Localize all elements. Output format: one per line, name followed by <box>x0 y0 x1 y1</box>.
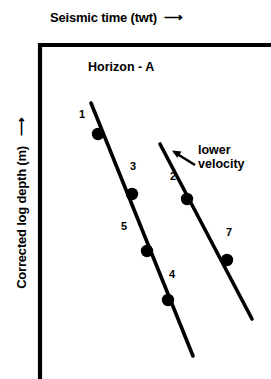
seismic-log-depth-figure: Seismic time (twt) ⟶ Corrected log depth… <box>0 0 271 379</box>
data-point-3 <box>126 188 138 200</box>
data-point-label-1: 1 <box>79 108 85 120</box>
data-point-label-7: 7 <box>226 226 232 238</box>
data-point-label-2: 2 <box>170 170 176 182</box>
data-point-1 <box>92 128 104 140</box>
data-point-4 <box>162 294 174 306</box>
data-point-7 <box>221 254 233 266</box>
data-point-label-3: 3 <box>130 160 136 172</box>
data-point-5 <box>141 245 153 257</box>
data-point-label-4: 4 <box>169 268 176 280</box>
data-point-2 <box>181 193 193 205</box>
axis-frame <box>40 45 271 379</box>
plot-canvas: 135427 <box>0 0 271 379</box>
data-point-label-5: 5 <box>121 220 127 232</box>
trend-line-left <box>91 103 193 356</box>
annotation-pointer-arrow <box>172 151 195 166</box>
